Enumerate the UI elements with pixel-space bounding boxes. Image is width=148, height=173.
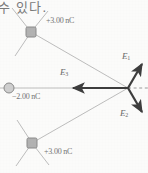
vector-label-E2: E2 xyxy=(120,108,128,118)
charge-marker-top xyxy=(26,27,36,37)
ray-top-to-point xyxy=(31,32,128,88)
vector-label-E1: E1 xyxy=(122,51,130,61)
charge-label-top: +3.00 nC xyxy=(46,16,74,25)
figure-canvas xyxy=(0,0,148,173)
electric-field-figure: 수 있다. +3.00 nC −2.00 nC +3.00 nC E1 E2 E… xyxy=(0,0,148,173)
charge-marker-bottom xyxy=(27,138,37,148)
field-vector-group xyxy=(73,64,142,112)
vector-label-E3: E3 xyxy=(60,67,68,77)
vector-label-E1-subscript: 1 xyxy=(127,55,130,61)
vector-label-E2-subscript: 2 xyxy=(125,112,128,118)
vector-E2-arrow xyxy=(128,88,142,112)
charge-label-middle: −2.00 nC xyxy=(12,92,40,101)
vector-E1-arrow xyxy=(128,64,142,88)
charge-label-bottom: +3.00 nC xyxy=(44,147,72,156)
ray-bottom-to-point xyxy=(32,88,128,143)
caption-fragment: 수 있다. xyxy=(0,0,47,16)
vector-label-E3-subscript: 3 xyxy=(65,71,68,77)
